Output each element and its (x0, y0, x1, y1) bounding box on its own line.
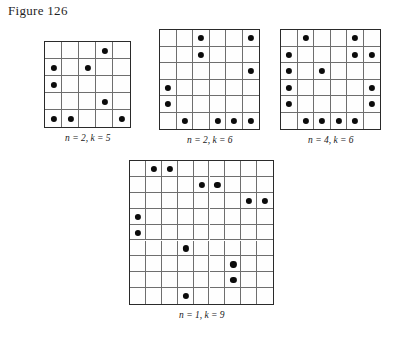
grid-cell (210, 30, 227, 47)
panel-caption: n = 2, k = 6 (159, 135, 261, 145)
grid-cell (210, 47, 227, 64)
grid-cell (162, 177, 178, 193)
grid-cell (194, 225, 210, 241)
grid-cell (241, 177, 257, 193)
grid-cell (331, 96, 348, 113)
grid-cell (226, 47, 243, 64)
grid-cell (347, 96, 364, 113)
grid-cell (257, 241, 273, 257)
grid-cell (257, 161, 273, 177)
grid-cell (331, 30, 348, 47)
grid-cell (62, 42, 79, 59)
grid-cell (210, 193, 226, 209)
lattice-panel: n = 2, k = 5 (44, 41, 132, 128)
grid-cell (178, 161, 194, 177)
grid-cell (130, 161, 146, 177)
grid-cell (226, 30, 243, 47)
grid-cell (226, 96, 243, 113)
grid-cell (331, 63, 348, 80)
grid-cell (298, 47, 315, 64)
grid-cell (225, 225, 241, 241)
grid-cell (160, 63, 177, 80)
grid-cell (364, 113, 381, 130)
grid-cell (177, 47, 194, 64)
grid-cell (146, 177, 162, 193)
grid-cell (162, 241, 178, 257)
grid-cell (177, 80, 194, 97)
grid-cell (162, 256, 178, 272)
grid-cell (178, 193, 194, 209)
lattice-grid (280, 29, 381, 130)
lattice-panel: n = 1, k = 9 (129, 160, 275, 305)
grid-cell (62, 76, 79, 93)
grid-cell (225, 288, 241, 304)
grid-cell (210, 63, 227, 80)
grid-cell (160, 113, 177, 130)
grid-cell (243, 47, 260, 64)
grid-cell (364, 63, 381, 80)
grid-cell (113, 59, 130, 76)
grid-cell (146, 272, 162, 288)
grid-cell (96, 76, 113, 93)
grid-cell (193, 63, 210, 80)
lattice-grid (44, 41, 131, 128)
grid-cell (257, 288, 273, 304)
grid-cell (241, 256, 257, 272)
grid-cell (62, 93, 79, 110)
grid-cell (347, 80, 364, 97)
grid-cell (331, 80, 348, 97)
grid-cell (130, 177, 146, 193)
grid-cell (194, 241, 210, 257)
grid-cell (160, 47, 177, 64)
grid-cell (226, 80, 243, 97)
grid-cell (210, 256, 226, 272)
grid-cell (146, 288, 162, 304)
grid-cell (241, 209, 257, 225)
grid-cell (210, 80, 227, 97)
grid-cell (194, 193, 210, 209)
grid-cell (241, 225, 257, 241)
panel-caption: n = 1, k = 9 (129, 310, 275, 320)
grid-cell (177, 63, 194, 80)
grid-cell (194, 272, 210, 288)
grid-cell (162, 288, 178, 304)
grid-cell (226, 63, 243, 80)
grid-cell (298, 80, 315, 97)
grid-cell (225, 241, 241, 257)
grid-cell (210, 209, 226, 225)
grid-cell (194, 161, 210, 177)
grid-cell (160, 30, 177, 47)
grid-cell (193, 113, 210, 130)
grid-cell (178, 177, 194, 193)
grid-cell (146, 225, 162, 241)
grid-cell (298, 63, 315, 80)
grid-cell (162, 209, 178, 225)
grid-cell (193, 96, 210, 113)
grid-cell (314, 96, 331, 113)
grid-cell (257, 177, 273, 193)
grid-cell (178, 272, 194, 288)
grid-cell (130, 241, 146, 257)
grid-cell (177, 30, 194, 47)
grid-cell (243, 80, 260, 97)
grid-cell (257, 209, 273, 225)
grid-cell (79, 76, 96, 93)
grid-cell (130, 256, 146, 272)
grid-cell (331, 47, 348, 64)
grid-cell (281, 30, 298, 47)
grid-cell (178, 256, 194, 272)
grid-cell (79, 93, 96, 110)
grid-cell (210, 161, 226, 177)
grid-cell (96, 59, 113, 76)
grid-cell (257, 256, 273, 272)
panel-caption: n = 2, k = 5 (44, 133, 132, 143)
grid-cell (347, 63, 364, 80)
grid-cell (162, 225, 178, 241)
grid-cell (314, 30, 331, 47)
grid-cell (314, 80, 331, 97)
grid-cell (146, 193, 162, 209)
grid-cell (364, 30, 381, 47)
lattice-grid (159, 29, 260, 130)
grid-cell (241, 288, 257, 304)
grid-cell (62, 59, 79, 76)
